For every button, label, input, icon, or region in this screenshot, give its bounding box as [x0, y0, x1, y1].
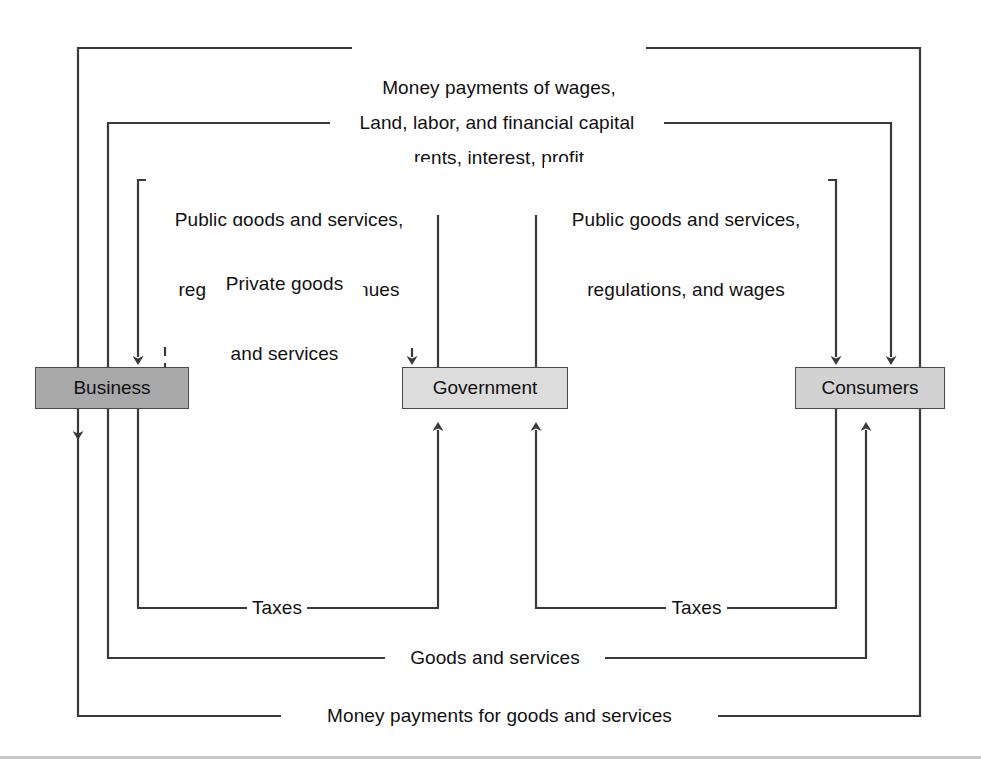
entity-label-business: Business: [73, 377, 150, 399]
circular-flow-diagram: Business Government Consumers Money paym…: [0, 0, 981, 764]
flow-label-goods-services: Goods and services: [385, 646, 605, 669]
flow-label-money-wages-line1: Money payments of wages,: [352, 76, 646, 99]
flow-label-public-consumers: Public goods and services, regulations, …: [544, 162, 828, 347]
flow-line-taxes-business: [138, 409, 438, 608]
flow-line-taxes-consumers: [536, 409, 836, 608]
entity-box-government[interactable]: Government: [402, 367, 568, 409]
flow-label-public-consumers-line2: regulations, and wages: [544, 278, 828, 301]
entity-box-business[interactable]: Business: [35, 367, 189, 409]
flow-label-money-goods: Money payments for goods and services: [281, 704, 718, 727]
flow-label-private-goods: Private goods and services: [206, 226, 363, 411]
footer-divider: [0, 756, 981, 759]
flow-label-taxes-consumers: Taxes: [666, 596, 727, 619]
flow-label-land-labor: Land, labor, and financial capital: [330, 111, 664, 134]
entity-label-government: Government: [433, 377, 538, 399]
entity-label-consumers: Consumers: [821, 377, 918, 399]
entity-box-consumers[interactable]: Consumers: [795, 367, 945, 409]
flow-label-private-goods-line2: and services: [206, 342, 363, 365]
flow-label-public-consumers-line1: Public goods and services,: [544, 208, 828, 231]
flow-line-money-goods: [78, 409, 920, 716]
flow-label-taxes-business: Taxes: [247, 596, 307, 619]
flow-label-private-goods-line1: Private goods: [206, 272, 363, 295]
flow-line-goods-services: [108, 409, 866, 658]
